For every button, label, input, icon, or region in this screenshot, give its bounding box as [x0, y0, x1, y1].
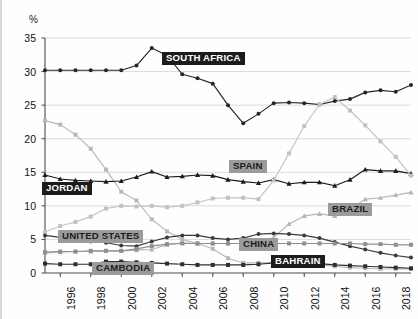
x-axis-ticks: 1996199820002002200420062008201020122014…: [2, 0, 418, 319]
series-label-south-africa: SOUTH AFRICA: [162, 52, 245, 65]
series-label-china: CHINA: [239, 238, 278, 251]
x-tick-label: 2018: [400, 287, 412, 310]
series-label-spain: SPAIN: [229, 160, 267, 173]
x-tick-label: 2002: [156, 287, 168, 310]
series-label-jordan: JORDAN: [42, 182, 92, 195]
series-label-united-states: UNITED STATES: [58, 230, 143, 243]
x-tick-label: 2000: [126, 287, 138, 310]
x-tick-label: 1998: [95, 287, 107, 310]
chart-container: % 05101520253035 19961998200020022004200…: [0, 0, 418, 319]
x-tick-label: 2010: [278, 287, 290, 310]
x-tick-label: 1996: [65, 287, 77, 310]
series-label-brazil: BRAZIL: [328, 203, 372, 216]
x-tick-label: 2004: [187, 287, 199, 310]
x-tick-label: 2016: [370, 287, 382, 310]
series-label-cambodia: CAMBODIA: [92, 262, 154, 275]
series-label-bahrain: BAHRAIN: [271, 255, 325, 268]
x-tick-label: 2014: [339, 287, 351, 310]
x-tick-label: 2012: [309, 287, 321, 310]
x-tick-label: 2008: [248, 287, 260, 310]
x-tick-label: 2006: [217, 287, 229, 310]
